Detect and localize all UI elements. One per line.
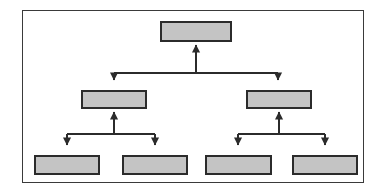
connector-midleft-to-leaves — [67, 112, 155, 145]
node-leaf-1[interactable] — [34, 155, 100, 175]
node-leaf-4[interactable] — [292, 155, 358, 175]
node-mid-right[interactable] — [246, 90, 312, 109]
connector-root-to-level2 — [114, 45, 278, 80]
node-leaf-2[interactable] — [122, 155, 188, 175]
node-root[interactable] — [160, 21, 232, 42]
node-leaf-3[interactable] — [205, 155, 272, 175]
diagram-canvas — [0, 0, 386, 193]
node-mid-left[interactable] — [81, 90, 147, 109]
connector-midright-to-leaves — [238, 112, 325, 145]
